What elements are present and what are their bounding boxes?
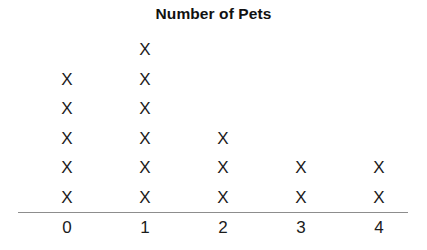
x-mark: X	[139, 124, 150, 154]
x-mark: X	[139, 183, 150, 213]
x-mark-column-4: XX	[359, 153, 399, 212]
dot-plot-chart: Number of Pets XXXXXXXXXXXXXXXXXX 01234	[0, 0, 427, 250]
x-mark: X	[61, 65, 72, 95]
chart-title: Number of Pets	[0, 4, 427, 24]
x-mark: X	[61, 94, 72, 124]
x-mark: X	[61, 153, 72, 183]
x-mark-column-1: XXXXXX	[125, 35, 165, 212]
x-axis-tick-label-1: 1	[125, 215, 165, 241]
x-mark-column-0: XXXXX	[47, 65, 87, 213]
x-mark-column-2: XXX	[203, 124, 243, 213]
x-axis-tick-labels: 01234	[0, 215, 427, 245]
x-mark: X	[139, 65, 150, 95]
x-mark: X	[295, 153, 306, 183]
x-mark: X	[295, 183, 306, 213]
x-mark: X	[139, 94, 150, 124]
x-mark: X	[139, 35, 150, 65]
x-mark: X	[217, 153, 228, 183]
x-axis-line	[18, 212, 408, 213]
x-mark: X	[217, 124, 228, 154]
x-mark: X	[139, 153, 150, 183]
plot-area: XXXXXXXXXXXXXXXXXX	[0, 30, 427, 212]
x-mark: X	[373, 183, 384, 213]
x-axis-tick-label-3: 3	[281, 215, 321, 241]
x-mark-column-3: XX	[281, 153, 321, 212]
x-axis-tick-label-0: 0	[47, 215, 87, 241]
x-mark: X	[61, 183, 72, 213]
x-axis-tick-label-4: 4	[359, 215, 399, 241]
x-mark: X	[217, 183, 228, 213]
x-mark: X	[373, 153, 384, 183]
x-mark: X	[61, 124, 72, 154]
x-axis-tick-label-2: 2	[203, 215, 243, 241]
